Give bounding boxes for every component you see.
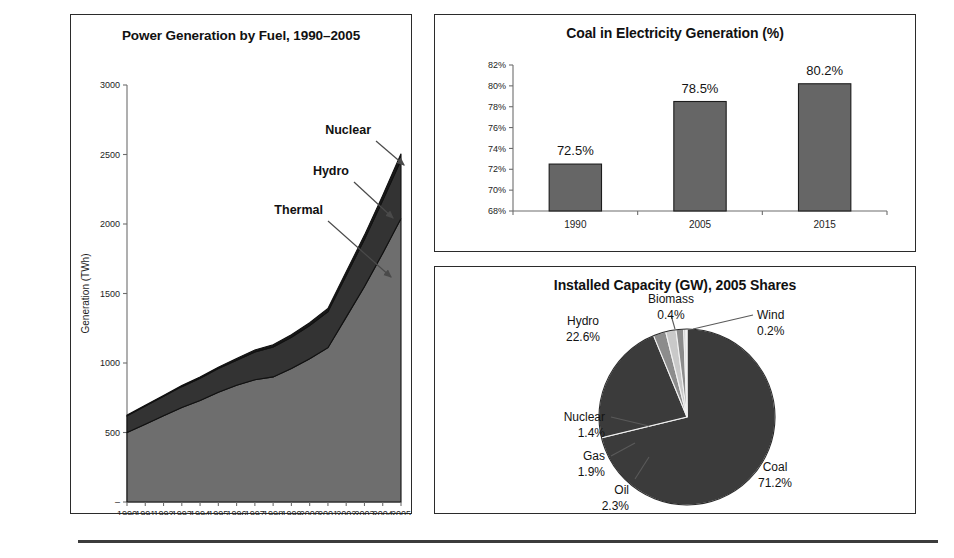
pie-label-nuclear: Nuclear <box>564 410 605 424</box>
bar-y-tick-label: 70% <box>488 185 506 195</box>
bar-chart-plot: 68%70%72%74%76%78%80%82%72.5%199078.5%20… <box>435 15 917 253</box>
area-x-tick-label: 1993 <box>172 509 192 515</box>
area-x-tick-label: 2003 <box>354 509 374 515</box>
area-y-tick-label: 2500 <box>100 150 120 160</box>
pie-value-coal: 71.2% <box>758 476 792 490</box>
area-y-tick-label: 500 <box>105 428 120 438</box>
panel-installed-capacity: Installed Capacity (GW), 2005 Shares Bio… <box>434 266 916 514</box>
area-callout-label-thermal: Thermal <box>274 203 323 217</box>
bar-2015[interactable] <box>798 84 850 211</box>
pie-label-coal: Coal <box>763 460 788 474</box>
area-x-tick-label: 1992 <box>154 509 174 515</box>
bar-value-label-1990: 72.5% <box>557 143 594 158</box>
pie-label-hydro: Hydro <box>567 314 599 328</box>
bar-y-tick-label: 72% <box>488 164 506 174</box>
bar-category-label-2005: 2005 <box>689 219 712 230</box>
pie-chart-plot: Biomass0.4%Wind0.2%Hydro22.6%Nuclear1.4%… <box>435 267 917 515</box>
area-x-tick-label: 2000 <box>300 509 320 515</box>
pie-label-oil: Oil <box>614 483 629 497</box>
pie-value-nuclear: 1.4% <box>578 426 606 440</box>
area-x-tick-label: 1997 <box>245 509 265 515</box>
area-x-tick-label: 1995 <box>208 509 228 515</box>
bar-y-tick-label: 80% <box>488 81 506 91</box>
bar-2005[interactable] <box>674 102 726 212</box>
pie-value-gas: 1.9% <box>578 465 606 479</box>
area-y-tick-label: 2000 <box>100 219 120 229</box>
bar-y-tick-label: 78% <box>488 102 506 112</box>
pie-value-hydro: 22.6% <box>566 330 600 344</box>
area-x-tick-label: 2004 <box>373 509 393 515</box>
area-callout-arrow-nuclear <box>376 141 404 165</box>
area-y-tick-label: 3000 <box>100 80 120 90</box>
panel-power-generation: Power Generation by Fuel, 1990–2005 –500… <box>70 14 412 514</box>
area-callout-label-hydro: Hydro <box>313 164 349 178</box>
bar-1990[interactable] <box>549 164 601 211</box>
area-x-tick-label: 1991 <box>135 509 155 515</box>
pie-label-wind: Wind <box>757 308 784 322</box>
area-x-tick-label: 2001 <box>318 509 338 515</box>
bar-category-label-1990: 1990 <box>564 219 587 230</box>
area-y-tick-label: – <box>115 497 120 507</box>
pie-value-oil: 2.3% <box>602 499 630 513</box>
area-x-tick-label: 2005 <box>391 509 411 515</box>
bar-y-tick-label: 76% <box>488 123 506 133</box>
footer-divider <box>78 540 938 543</box>
pie-label-biomass: Biomass <box>648 292 694 306</box>
panel-coal-share: Coal in Electricity Generation (%) 68%70… <box>434 14 916 252</box>
area-callout-label-nuclear: Nuclear <box>325 123 371 137</box>
area-x-tick-label: 2002 <box>336 509 356 515</box>
area-x-tick-label: 1999 <box>281 509 301 515</box>
area-chart-plot: –50010001500200025003000Generation (TWh)… <box>71 15 413 515</box>
area-y-axis-title: Generation (TWh) <box>80 253 91 333</box>
area-x-tick-label: 1990 <box>117 509 137 515</box>
area-y-tick-label: 1500 <box>100 289 120 299</box>
pie-value-wind: 0.2% <box>757 324 785 338</box>
bar-y-tick-label: 68% <box>488 206 506 216</box>
bar-category-label-2015: 2015 <box>814 219 837 230</box>
bar-y-tick-label: 82% <box>488 60 506 70</box>
pie-leader-wind <box>693 315 753 329</box>
bar-value-label-2015: 80.2% <box>806 63 843 78</box>
area-x-tick-label: 1998 <box>263 509 283 515</box>
bar-value-label-2005: 78.5% <box>682 81 719 96</box>
pie-label-gas: Gas <box>583 449 605 463</box>
area-x-tick-label: 1994 <box>190 509 210 515</box>
area-y-tick-label: 1000 <box>100 358 120 368</box>
bar-y-tick-label: 74% <box>488 144 506 154</box>
pie-value-biomass: 0.4% <box>657 308 685 322</box>
area-x-tick-label: 1996 <box>227 509 247 515</box>
figure-root: Power Generation by Fuel, 1990–2005 –500… <box>0 0 954 558</box>
